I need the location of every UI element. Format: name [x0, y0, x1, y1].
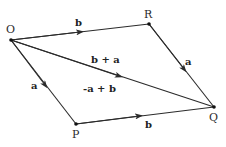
label-vector-RQ: a: [185, 56, 192, 67]
edge-OQ-diagonal: [11, 40, 214, 107]
label-diagonal-upper: b + a: [91, 54, 120, 65]
label-O: O: [6, 23, 15, 36]
label-R: R: [144, 8, 153, 21]
label-vector-PQ: b: [145, 119, 152, 130]
label-P: P: [72, 128, 80, 141]
point-Q: [212, 105, 216, 109]
label-vector-OR: b: [75, 17, 82, 28]
edge-OP: [11, 40, 76, 124]
label-diagonal-lower: -a + b: [83, 83, 116, 94]
edge-RQ: [149, 24, 214, 107]
label-Q: Q: [209, 111, 218, 124]
point-O: [9, 38, 13, 42]
vector-diagram: O R P Q b a a b b + a -a + b: [0, 0, 226, 147]
point-R: [147, 22, 151, 26]
label-vector-OP: a: [31, 80, 38, 91]
point-P: [74, 122, 78, 126]
